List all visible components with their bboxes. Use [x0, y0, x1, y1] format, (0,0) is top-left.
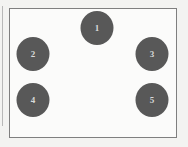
node-label: 3 — [150, 49, 155, 59]
node-3: 3 — [136, 37, 169, 71]
node-2: 2 — [17, 37, 50, 71]
node-5: 5 — [136, 83, 169, 117]
node-1: 1 — [81, 11, 114, 45]
node-label: 2 — [31, 49, 36, 59]
node-label: 4 — [31, 95, 36, 105]
node-4: 4 — [17, 83, 50, 117]
left-divider-line — [2, 6, 3, 126]
node-label: 1 — [95, 23, 100, 33]
node-label: 5 — [150, 95, 155, 105]
